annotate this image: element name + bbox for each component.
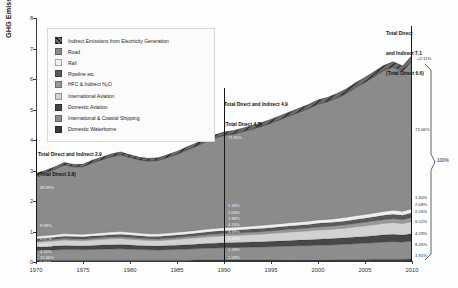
y-tick-label: 3 xyxy=(23,168,33,174)
y-axis-title-main: GHG Emissions [GtCO xyxy=(4,0,13,38)
legend-item-label: Road xyxy=(68,49,80,55)
x-tick xyxy=(412,261,413,264)
legend-swatch-icon xyxy=(55,59,62,66)
annotation-1970-line2: (Total Direct 2.8) xyxy=(38,172,102,179)
annotation-1970-line1: Total Direct and Indirect 2.9 xyxy=(38,152,102,159)
y-tick-label: 1 xyxy=(23,229,33,235)
x-tick xyxy=(271,261,272,264)
percent-label: 2.00% xyxy=(228,211,240,215)
y-tick-label: 0 xyxy=(23,259,33,265)
x-tick xyxy=(318,261,319,264)
x-tick-label: 1975 xyxy=(68,267,98,273)
annotation-2010-line3: (Total Direct 6.6) xyxy=(386,71,424,78)
legend-swatch-icon xyxy=(55,37,62,44)
legend-item-label: Domestic Waterborne xyxy=(68,126,116,132)
y-tick-label: 6 xyxy=(23,76,33,82)
legend-swatch-icon xyxy=(55,70,62,77)
annotation-1970: Total Direct and Indirect 2.9 (Total Dir… xyxy=(38,138,102,192)
percent-label-right: 8.26% xyxy=(415,243,427,247)
percent-label: 9.58% xyxy=(40,224,52,228)
legend-item[interactable]: International & Coastal Shipping xyxy=(55,113,207,124)
x-tick-label: 2005 xyxy=(350,267,380,273)
x-tick-label: 1985 xyxy=(162,267,192,273)
chart-root: GHG Emissions [GtCO2 eq/yr] 012345678 19… xyxy=(0,0,458,288)
x-tick xyxy=(177,261,178,264)
legend-item-label: HFC & Indirect N2O xyxy=(68,81,112,88)
x-tick-label: 1970 xyxy=(21,267,51,273)
legend-item[interactable]: International Aviation xyxy=(55,90,207,101)
legend-item[interactable]: Rail xyxy=(55,57,207,68)
legend-item[interactable]: Road xyxy=(55,46,207,57)
percent-label: 8.34% xyxy=(228,237,240,241)
percent-label-right: 4.19% xyxy=(415,232,427,236)
marker-line-1970 xyxy=(36,138,37,262)
total-percent-label: 100% xyxy=(437,158,449,163)
legend-item[interactable]: HFC & Indirect N2O xyxy=(55,79,207,90)
legend-item[interactable]: Indirect Emissions from Electricity Gene… xyxy=(55,35,207,46)
legend-item-label: International Aviation xyxy=(68,93,114,99)
legend-item[interactable]: Pipeline etc. xyxy=(55,68,207,79)
legend-swatch-icon xyxy=(55,115,62,122)
annotation-2010: Total Direct and Indirect 7.1 (Total Dir… xyxy=(386,17,424,91)
annotation-2010-line1: Total Direct xyxy=(386,31,424,38)
growth-rate-label: +2.11% xyxy=(417,56,431,61)
percent-label: 4.11% xyxy=(40,250,51,254)
legend-item-label: Domestic Aviation xyxy=(68,104,108,110)
x-tick xyxy=(130,261,131,264)
y-tick-label: 8 xyxy=(23,15,33,21)
x-tick-label: 2010 xyxy=(397,267,427,273)
percent-label-right: 6.52% xyxy=(415,220,427,224)
percent-label: 1.98% xyxy=(228,217,240,221)
legend-item[interactable]: Domestic Waterborne xyxy=(55,124,207,135)
percent-label-right: 2.08% xyxy=(415,203,427,207)
x-tick-label: 1980 xyxy=(115,267,145,273)
y-tick-label: 5 xyxy=(23,107,33,113)
percent-label: 3.39% xyxy=(228,230,240,234)
chart-legend: Indirect Emissions from Electricity Gene… xyxy=(47,28,215,142)
y-tick-label: 7 xyxy=(23,46,33,52)
y-tick xyxy=(33,49,36,50)
percent-label: 1.34% xyxy=(228,248,240,252)
y-axis-title: GHG Emissions [GtCO2 eq/yr] xyxy=(4,0,16,38)
percent-label-right: 1.91% xyxy=(415,254,427,258)
annotation-1990-line1: Total Direct and Indirect 4.9 xyxy=(224,102,288,109)
percent-label: 1.34% xyxy=(228,204,240,208)
x-tick-label: 1995 xyxy=(256,267,286,273)
legend-item[interactable]: Domestic Aviation xyxy=(55,102,207,113)
percent-label: 4.74% xyxy=(228,223,240,227)
legend-swatch-icon xyxy=(55,48,62,55)
y-tick xyxy=(33,110,36,111)
percent-label: 5.55% xyxy=(40,244,52,248)
y-tick xyxy=(33,79,36,80)
percent-label-right: 1.60% xyxy=(415,196,427,200)
x-tick-label: 2000 xyxy=(303,267,333,273)
percent-label-right: 2.16% xyxy=(415,210,427,214)
x-tick xyxy=(83,261,84,264)
percent-label: 1.29% xyxy=(228,256,240,260)
legend-item-label: International & Coastal Shipping xyxy=(68,115,139,121)
legend-swatch-icon xyxy=(55,104,62,111)
legend-item-label: Indirect Emissions from Electricity Gene… xyxy=(68,38,169,44)
legend-swatch-icon xyxy=(55,93,62,100)
x-tick xyxy=(365,261,366,264)
legend-item-label: Rail xyxy=(68,60,77,66)
x-tick-label: 1990 xyxy=(209,267,239,273)
legend-item-label: Pipeline etc. xyxy=(68,71,95,77)
legend-swatch-icon xyxy=(55,81,62,88)
legend-swatch-icon xyxy=(55,126,62,133)
annotation-1990: Total Direct and Indirect 4.9 (Total Dir… xyxy=(224,88,288,142)
y-tick-label: 4 xyxy=(23,137,33,143)
y-tick xyxy=(33,18,36,19)
y-tick-label: 2 xyxy=(23,198,33,204)
annotation-1990-line2: (Total Direct 4.7) xyxy=(224,122,288,129)
percent-label: 2.97% xyxy=(40,237,52,241)
percent-label-right: 72.06% xyxy=(415,128,430,132)
percent-label: 1.91% xyxy=(40,261,52,265)
